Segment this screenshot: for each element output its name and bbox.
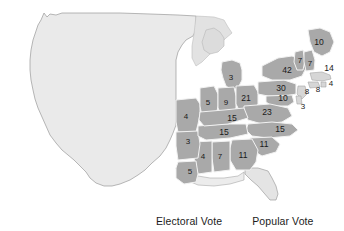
map-legend: Electoral Vote Popular Vote [0, 215, 344, 227]
state-value-label: 11 [239, 150, 248, 160]
us-map-svg: 10771442488301032315111174534151521953 [0, 0, 344, 231]
state-value-label: 5 [188, 167, 193, 176]
state-value-label: 15 [275, 124, 285, 134]
state-value-label: 15 [227, 113, 237, 123]
us-electoral-map-figure: 10771442488301032315111174534151521953 E… [0, 0, 344, 231]
state-value-label: 7 [298, 56, 303, 65]
state-florida [245, 168, 278, 200]
legend-item-popular-vote: Popular Vote [252, 215, 313, 227]
state-value-label: 9 [224, 98, 229, 107]
map-region-west [30, 13, 196, 186]
state-value-label: 23 [262, 107, 272, 117]
western-states-area [30, 13, 196, 186]
state-value-label: 7 [308, 59, 313, 68]
state-value-label: 8 [305, 87, 310, 96]
state-north-carolina [246, 122, 298, 138]
state-value-label: 8 [316, 85, 321, 94]
state-value-label: 30 [276, 83, 286, 93]
state-value-label: 3 [186, 137, 191, 146]
state-value-label: 4 [329, 79, 334, 88]
state-value-label: 15 [219, 127, 229, 137]
state-value-label: 11 [260, 139, 269, 149]
state-value-label: 3 [301, 102, 306, 111]
legend-item-electoral-vote: Electoral Vote [156, 215, 222, 227]
state-value-label: 14 [324, 63, 334, 73]
state-value-label: 10 [314, 37, 324, 47]
state-value-label: 42 [282, 65, 292, 75]
state-value-label: 10 [278, 93, 288, 103]
state-rhode-island [321, 82, 326, 87]
state-value-label: 4 [201, 152, 206, 161]
state-value-label: 5 [206, 98, 211, 107]
state-value-label: 7 [218, 152, 223, 161]
state-value-label: 3 [229, 73, 234, 82]
state-value-label: 21 [241, 93, 251, 103]
state-value-label: 4 [184, 112, 189, 121]
